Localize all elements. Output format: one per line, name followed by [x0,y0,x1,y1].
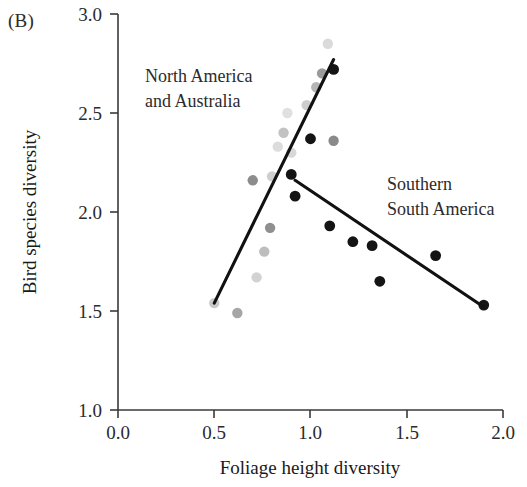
data-point [347,236,358,247]
data-point [286,169,297,180]
y-tick-labels: 3.0 2.5 2.0 1.5 1.0 [78,4,102,421]
data-point [328,136,338,146]
annotation-na-line2: and Australia [145,91,240,111]
data-point [278,128,288,138]
x-tick-label-3: 1.5 [395,422,419,443]
data-point [290,191,301,202]
y-tick-label-2: 2.0 [78,202,102,223]
figure-panel-b: (B) 3.0 2.5 2.0 1.5 1.0 [0,0,527,487]
data-point [248,175,258,185]
data-point [367,240,378,251]
annotation-southern-south-america: Southern South America [387,174,494,219]
data-point [323,39,333,49]
data-point [305,133,316,144]
data-point [265,223,275,233]
y-tick-label-3: 1.5 [78,301,102,322]
data-point [324,220,335,231]
x-tick-label-1: 0.5 [202,422,226,443]
annotation-na-line1: North America [145,66,252,86]
x-tick-labels: 0.0 0.5 1.0 1.5 2.0 [106,422,515,443]
x-tick-label-4: 2.0 [491,422,515,443]
y-tick-label-4: 1.0 [78,400,102,421]
annotation-north-america-australia: North America and Australia [145,66,252,111]
data-point [259,246,269,256]
data-point [374,276,385,287]
scatter-plot: 3.0 2.5 2.0 1.5 1.0 0.0 0.5 1.0 1.5 2.0 … [0,0,527,487]
annotation-ssa-line1: Southern [387,174,452,194]
data-point [282,108,292,118]
data-point [430,250,441,261]
x-axis-title: Foliage height diversity [220,457,401,478]
y-axis-title: Bird species diversity [19,129,40,294]
data-point [273,141,283,151]
data-point [251,272,261,282]
y-tick-label-1: 2.5 [78,103,102,124]
x-tick-label-2: 1.0 [298,422,322,443]
y-tick-label-0: 3.0 [78,4,102,25]
x-tick-label-0: 0.0 [106,422,130,443]
data-point [232,308,242,318]
annotation-ssa-line2: South America [387,199,494,219]
